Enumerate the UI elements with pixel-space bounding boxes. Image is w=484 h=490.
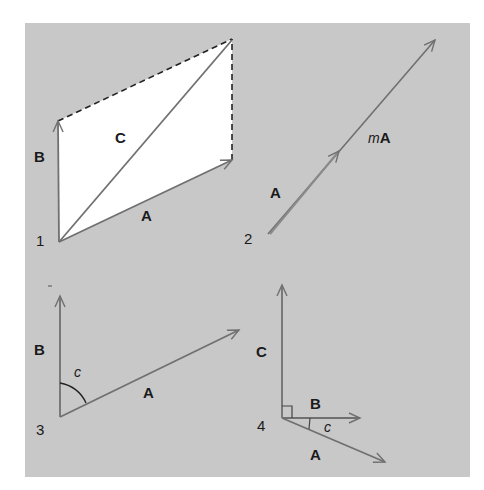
label-a: A <box>310 446 321 463</box>
label-a: A <box>270 184 281 201</box>
label-angle-c: c <box>74 364 81 380</box>
label-ma: mA <box>368 129 391 146</box>
vector-a-arrow <box>60 330 239 417</box>
label-angle-c: c <box>324 419 331 435</box>
label-c: C <box>115 129 126 146</box>
vector-a-arrow <box>282 418 385 462</box>
panel-4-cross-product: C B c A 4 <box>256 285 385 463</box>
label-a: A <box>143 384 154 401</box>
panel-number-3: 3 <box>36 421 44 438</box>
panel-number-1: 1 <box>36 232 44 249</box>
vector-diagram: B C A 1 A mA 2 B c A 3 C B c A 4 <box>0 0 484 490</box>
panel-3-angle: B c A 3 <box>34 286 239 438</box>
right-angle-marker <box>282 406 292 418</box>
panel-number-4: 4 <box>257 417 265 434</box>
angle-arc <box>60 383 86 403</box>
panel-1-parallelogram: B C A 1 <box>34 39 232 249</box>
label-a: A <box>141 207 152 224</box>
vector-b-arrow <box>58 121 59 242</box>
label-c: C <box>256 343 267 360</box>
label-b: B <box>34 148 45 165</box>
angle-tick <box>309 418 310 429</box>
panel-number-2: 2 <box>244 230 252 247</box>
panel-2-scalar-multiple: A mA 2 <box>244 40 435 247</box>
label-b: B <box>34 341 45 358</box>
label-b: B <box>310 395 321 412</box>
